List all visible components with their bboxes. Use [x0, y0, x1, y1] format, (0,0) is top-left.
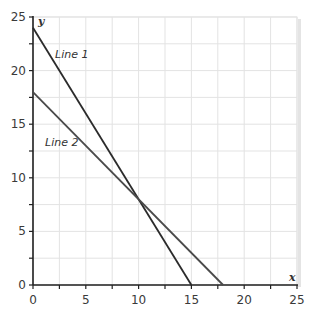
x-tick-label: 20 [237, 293, 252, 307]
line2-label: Line 2 [45, 136, 78, 149]
y-tick-label: 25 [11, 10, 26, 24]
y-tick-label: 15 [11, 117, 26, 131]
line-chart: 05101520250510152025 y x Line 1 Line 2 [0, 0, 312, 314]
line1-label: Line 1 [55, 48, 88, 61]
y-tick-label: 5 [18, 224, 26, 238]
x-tick-label: 10 [131, 293, 146, 307]
x-tick-label: 25 [289, 293, 304, 307]
x-tick-label: 5 [82, 293, 90, 307]
x-tick-label: 0 [29, 293, 37, 307]
x-axis-label: x [288, 271, 296, 284]
y-tick-label: 20 [11, 64, 26, 78]
y-tick-label: 0 [18, 278, 26, 292]
x-tick-label: 15 [184, 293, 199, 307]
y-tick-label: 10 [11, 171, 26, 185]
